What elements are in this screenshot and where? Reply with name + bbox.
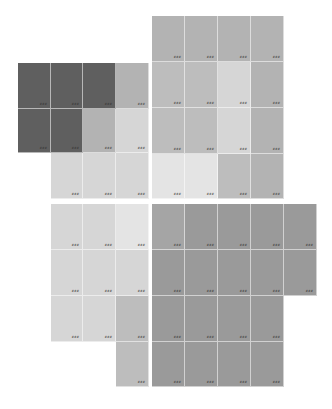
tile-label: ### xyxy=(173,244,181,247)
tile-label: ### xyxy=(206,244,214,247)
tile: ### xyxy=(152,62,185,108)
tile-label: ### xyxy=(71,336,79,339)
tile-label: ### xyxy=(104,103,112,106)
tile-label: ### xyxy=(137,290,145,293)
tile-label: ### xyxy=(71,147,79,150)
tile: ### xyxy=(185,204,218,250)
tile-label: ### xyxy=(239,244,247,247)
tile: ### xyxy=(152,342,185,387)
tile: ### xyxy=(251,108,284,154)
tile: ### xyxy=(116,342,149,387)
tile: ### xyxy=(218,154,251,199)
tile: ### xyxy=(284,250,317,296)
tile: ### xyxy=(83,204,116,250)
tile: ### xyxy=(218,16,251,62)
tile: ### xyxy=(18,109,51,153)
tile-label: ### xyxy=(272,290,280,293)
tile-label: ### xyxy=(137,244,145,247)
tile: ### xyxy=(218,108,251,154)
tile: ### xyxy=(51,296,83,342)
tile: ### xyxy=(185,16,218,62)
tile-label: ### xyxy=(239,336,247,339)
tile-label: ### xyxy=(272,336,280,339)
tile-label: ### xyxy=(206,148,214,151)
tile: ### xyxy=(152,16,185,62)
tile: ### xyxy=(83,109,116,153)
tile: ### xyxy=(116,204,149,250)
tile: ### xyxy=(83,153,116,199)
tile-label: ### xyxy=(71,193,79,196)
tile: ### xyxy=(185,154,218,199)
tile: ### xyxy=(152,154,185,199)
tile: ### xyxy=(116,250,149,296)
tile-label: ### xyxy=(173,148,181,151)
tile: ### xyxy=(218,296,251,342)
tile: ### xyxy=(51,153,83,199)
tile-label: ### xyxy=(173,102,181,105)
tile-label: ### xyxy=(206,381,214,384)
tile: ### xyxy=(218,250,251,296)
tile-label: ### xyxy=(71,244,79,247)
tile: ### xyxy=(185,62,218,108)
tile-label: ### xyxy=(305,290,313,293)
tile: ### xyxy=(251,250,284,296)
tile: ### xyxy=(251,204,284,250)
tile-label: ### xyxy=(137,381,145,384)
tile: ### xyxy=(116,296,149,342)
tile-label: ### xyxy=(272,381,280,384)
tile-label: ### xyxy=(206,102,214,105)
tile-label: ### xyxy=(239,56,247,59)
tile-label: ### xyxy=(239,193,247,196)
tile-label: ### xyxy=(71,290,79,293)
tile: ### xyxy=(51,250,83,296)
tile-label: ### xyxy=(206,290,214,293)
tile-label: ### xyxy=(137,193,145,196)
tile: ### xyxy=(218,62,251,108)
tile: ### xyxy=(116,63,149,109)
tile: ### xyxy=(185,108,218,154)
tile-label: ### xyxy=(173,336,181,339)
tile-label: ### xyxy=(272,244,280,247)
tile-label: ### xyxy=(104,290,112,293)
tile: ### xyxy=(51,63,83,109)
tile: ### xyxy=(152,250,185,296)
tile-label: ### xyxy=(272,56,280,59)
tile-label: ### xyxy=(173,290,181,293)
tile-label: ### xyxy=(104,193,112,196)
tile-label: ### xyxy=(104,147,112,150)
tile-label: ### xyxy=(206,56,214,59)
tile-label: ### xyxy=(173,193,181,196)
tile-label: ### xyxy=(272,102,280,105)
tile: ### xyxy=(116,109,149,153)
tile: ### xyxy=(284,204,317,250)
tile-label: ### xyxy=(137,103,145,106)
tile-label: ### xyxy=(137,336,145,339)
tile-label: ### xyxy=(104,244,112,247)
tile-label: ### xyxy=(39,147,47,150)
tile: ### xyxy=(185,296,218,342)
tile: ### xyxy=(251,296,284,342)
tile-label: ### xyxy=(206,193,214,196)
tile-label: ### xyxy=(239,102,247,105)
tile: ### xyxy=(251,342,284,387)
tile-label: ### xyxy=(239,148,247,151)
tile: ### xyxy=(18,63,51,109)
tile-label: ### xyxy=(272,148,280,151)
tile-label: ### xyxy=(305,244,313,247)
tile-label: ### xyxy=(272,193,280,196)
tile: ### xyxy=(185,250,218,296)
tile: ### xyxy=(251,16,284,62)
tile: ### xyxy=(51,204,83,250)
tile: ### xyxy=(51,109,83,153)
tile-label: ### xyxy=(39,103,47,106)
tile-label: ### xyxy=(173,381,181,384)
tile: ### xyxy=(152,108,185,154)
tile: ### xyxy=(116,153,149,199)
tile: ### xyxy=(83,296,116,342)
tile-label: ### xyxy=(239,290,247,293)
tile-label: ### xyxy=(104,336,112,339)
tile: ### xyxy=(251,62,284,108)
tile: ### xyxy=(152,204,185,250)
tile: ### xyxy=(218,204,251,250)
tile: ### xyxy=(185,342,218,387)
